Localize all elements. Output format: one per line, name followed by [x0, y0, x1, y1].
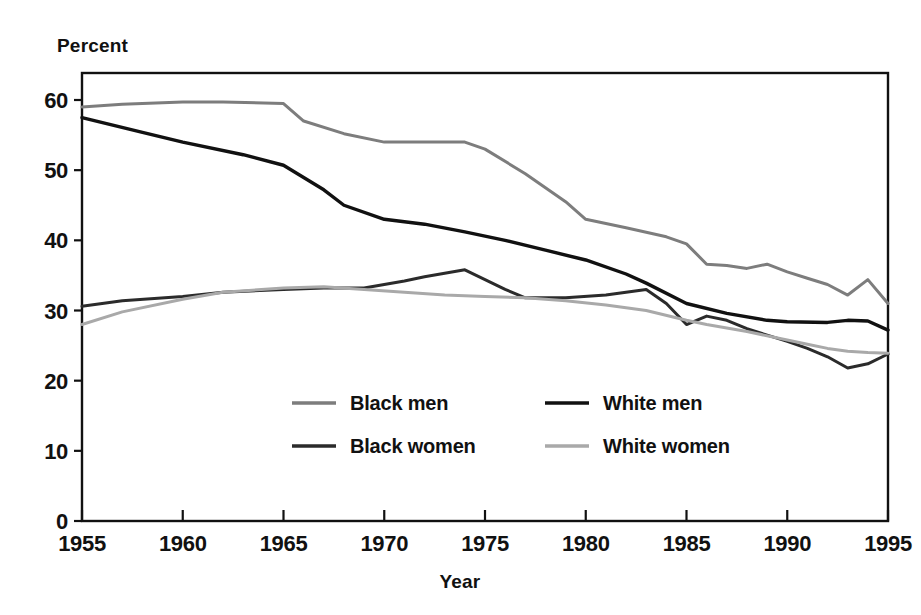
series-line-black-men [82, 102, 888, 303]
legend-label: Black women [350, 435, 476, 457]
x-axis-title: Year [440, 571, 481, 592]
legend-item: Black men [292, 392, 448, 414]
y-tick-label: 30 [44, 299, 68, 324]
x-axis-tick-labels: 195519601965197019751980198519901995 [58, 531, 912, 556]
x-tick-label: 1975 [461, 531, 509, 556]
x-tick-label: 1960 [159, 531, 207, 556]
y-tick-label: 10 [44, 439, 68, 464]
y-axis-title: Percent [57, 35, 129, 56]
legend-item: White men [545, 392, 702, 414]
y-axis-tick-labels: 0102030405060 [44, 88, 68, 534]
y-tick-label: 40 [44, 228, 68, 253]
y-tick-label: 20 [44, 369, 68, 394]
line-chart: Percent 0102030405060 195519601965197019… [0, 0, 921, 615]
x-tick-label: 1990 [763, 531, 811, 556]
x-tick-label: 1980 [562, 531, 610, 556]
y-tick-label: 60 [44, 88, 68, 113]
legend-label: White women [603, 435, 730, 457]
x-axis-tickmarks [82, 510, 888, 521]
chart-container: Percent 0102030405060 195519601965197019… [0, 0, 921, 615]
legend-label: Black men [350, 392, 448, 414]
x-tick-label: 1955 [58, 531, 106, 556]
x-tick-label: 1985 [663, 531, 711, 556]
x-tick-label: 1970 [360, 531, 408, 556]
legend-item: Black women [292, 435, 476, 457]
x-tick-label: 1995 [864, 531, 912, 556]
chart-legend: Black menWhite menBlack womenWhite women [292, 392, 730, 457]
x-tick-label: 1965 [260, 531, 308, 556]
legend-label: White men [603, 392, 702, 414]
data-series-group [82, 102, 888, 368]
legend-item: White women [545, 435, 730, 457]
y-tick-label: 50 [44, 158, 68, 183]
